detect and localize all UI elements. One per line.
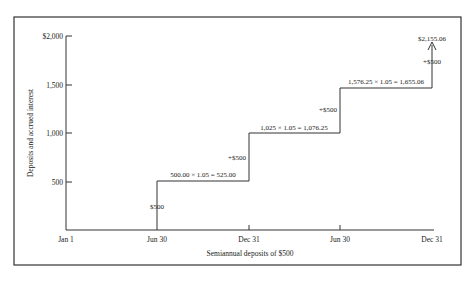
- annotation-interest: 500.00 × 1.05 = 525.00: [170, 171, 236, 179]
- x-tick-label: Dec 31: [421, 235, 443, 244]
- y-tick-label: 500: [52, 178, 64, 187]
- y-tick-label: $2,000: [42, 32, 63, 41]
- y-tick-label: 1,500: [46, 81, 63, 90]
- x-tick-label: Dec 31: [238, 235, 260, 244]
- y-tick-label: 1,000: [46, 129, 63, 138]
- annotation-deposit: +$500: [319, 106, 337, 114]
- x-tick-labels: Jan 1 Jun 30 Dec 31 Jun 30 Dec 31: [58, 235, 443, 244]
- x-tick-label: Jun 30: [330, 235, 350, 244]
- annotation-deposit: +$500: [228, 154, 246, 162]
- annotation-final-value: $2,155.06: [418, 35, 447, 43]
- y-ticks: [66, 36, 72, 182]
- annotation-deposit: $500: [150, 203, 165, 211]
- annotation-interest: 1,025 × 1.05 = 1,076.25: [260, 124, 328, 132]
- y-tick-labels: $2,000 1,500 1,000 500: [42, 32, 63, 187]
- annotation-deposit: +$500: [423, 58, 441, 66]
- x-tick-label: Jun 30: [147, 235, 167, 244]
- annotations: $500 500.00 × 1.05 = 525.00 +$500 1,025 …: [150, 35, 447, 211]
- x-ticks: [249, 225, 340, 230]
- balance-step-line: [157, 45, 432, 230]
- x-axis-title: Semiannual deposits of $500: [207, 249, 294, 258]
- x-tick-label: Jan 1: [58, 235, 74, 244]
- chart-canvas: $2,000 1,500 1,000 500 Deposits and accr…: [0, 0, 472, 287]
- annotation-interest: 1,576.25 × 1.05 = 1,655.06: [348, 78, 425, 86]
- y-axis-title: Deposits and accrued interest: [26, 88, 35, 177]
- chart-frame: [14, 17, 461, 265]
